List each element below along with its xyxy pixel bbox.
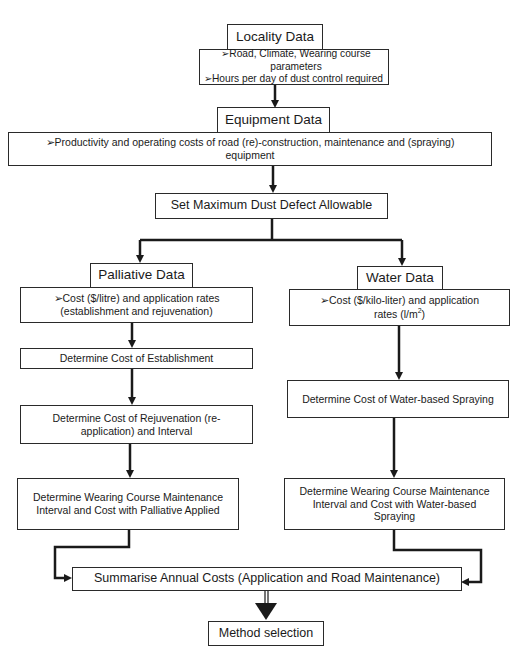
palliative-data-details: ➢Cost ($/litre) and application rates (e… bbox=[20, 287, 253, 323]
water-data-title-text: Water Data bbox=[366, 270, 434, 286]
locality-item-hours: ➢Hours per day of dust control required bbox=[204, 73, 383, 85]
equipment-item-productivity: ➢Productivity and operating costs of roa… bbox=[21, 136, 479, 162]
palliative-maintenance-text: Determine Wearing Course Maintenance Int… bbox=[28, 491, 228, 517]
palliative-rejuvenation-cost: Determine Cost of Rejuvenation (re-appli… bbox=[20, 405, 253, 444]
palliative-item-cost: ➢Cost ($/litre) and application rates (e… bbox=[27, 292, 246, 318]
water-item-cost-suffix: ) bbox=[422, 308, 426, 320]
set-max-dust-defect: Set Maximum Dust Defect Allowable bbox=[155, 193, 388, 219]
locality-data-details: ➢Road, Climate, Wearing course parameter… bbox=[199, 49, 389, 85]
summarise-annual-costs: Summarise Annual Costs (Application and … bbox=[72, 567, 462, 591]
flow-connectors bbox=[0, 0, 528, 658]
water-data-title: Water Data bbox=[357, 266, 443, 290]
locality-data-title: Locality Data bbox=[227, 24, 323, 50]
palliative-establishment-text: Determine Cost of Establishment bbox=[60, 352, 213, 365]
water-item-cost-text: ➢Cost ($/kilo-liter) and application rat… bbox=[320, 294, 479, 319]
equipment-data-title: Equipment Data bbox=[217, 107, 330, 134]
palliative-rejuvenation-text: Determine Cost of Rejuvenation (re-appli… bbox=[29, 412, 244, 438]
method-selection: Method selection bbox=[208, 621, 324, 646]
water-maintenance-cost: Determine Wearing Course Maintenance Int… bbox=[284, 478, 505, 530]
palliative-establishment-cost: Determine Cost of Establishment bbox=[20, 348, 253, 369]
locality-item-road: ➢Road, Climate, Wearing course parameter… bbox=[204, 48, 388, 73]
water-item-cost: ➢Cost ($/kilo-liter) and application rat… bbox=[310, 294, 489, 320]
water-spraying-text: Determine Cost of Water-based Spraying bbox=[302, 393, 494, 406]
equipment-data-title-text: Equipment Data bbox=[225, 112, 322, 128]
summarise-annual-costs-text: Summarise Annual Costs (Application and … bbox=[94, 571, 440, 586]
palliative-data-title: Palliative Data bbox=[90, 263, 193, 288]
method-selection-text: Method selection bbox=[219, 626, 314, 641]
water-maintenance-text: Determine Wearing Course Maintenance Int… bbox=[295, 485, 494, 523]
equipment-data-details: ➢Productivity and operating costs of roa… bbox=[8, 132, 492, 166]
water-spraying-cost: Determine Cost of Water-based Spraying bbox=[287, 380, 509, 418]
palliative-data-title-text: Palliative Data bbox=[98, 267, 184, 283]
locality-data-title-text: Locality Data bbox=[236, 29, 314, 45]
palliative-maintenance-cost: Determine Wearing Course Maintenance Int… bbox=[17, 478, 239, 530]
set-max-dust-defect-text: Set Maximum Dust Defect Allowable bbox=[171, 198, 372, 213]
water-data-details: ➢Cost ($/kilo-liter) and application rat… bbox=[289, 289, 510, 326]
